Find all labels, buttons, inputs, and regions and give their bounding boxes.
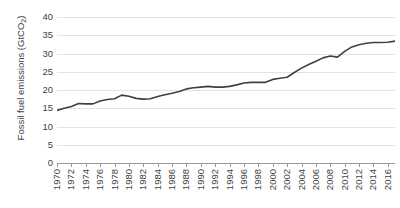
x-tick-label: 2008: [325, 169, 335, 190]
y-tick-label: 25: [27, 67, 53, 77]
x-axis-ticks: 1970197219741976197819801982198419861988…: [57, 164, 395, 208]
x-tick-mark: [373, 164, 374, 167]
x-tick-label: 2002: [282, 169, 292, 190]
x-tick-label: 1972: [66, 169, 76, 190]
x-tick-mark: [86, 164, 87, 167]
x-tick-label: 1984: [153, 169, 163, 190]
x-tick-mark: [57, 164, 58, 167]
x-tick-label: 1980: [124, 169, 134, 190]
y-axis-title: Fossil fuel emissions (GtCO2): [14, 0, 28, 158]
x-tick-mark: [258, 164, 259, 167]
x-tick-mark: [273, 164, 274, 167]
x-tick-mark: [172, 164, 173, 167]
x-tick-mark: [215, 164, 216, 167]
y-axis-title-subscript: 2: [20, 19, 27, 23]
y-tick-label: 20: [27, 85, 53, 95]
x-tick-label: 1994: [225, 169, 235, 190]
x-tick-label: 2010: [340, 169, 350, 190]
x-tick-mark: [287, 164, 288, 167]
x-tick-label: 2004: [297, 169, 307, 190]
x-tick-mark: [143, 164, 144, 167]
x-tick-label: 2006: [311, 169, 321, 190]
x-tick-mark: [230, 164, 231, 167]
x-tick-mark: [345, 164, 346, 167]
x-tick-label: 1990: [196, 169, 206, 190]
x-tick-label: 1974: [81, 169, 91, 190]
y-tick-label: 0: [27, 158, 53, 168]
x-tick-mark: [359, 164, 360, 167]
x-tick-label: 1988: [181, 169, 191, 190]
chart-container: Fossil fuel emissions (GtCO2) 4035302520…: [0, 0, 400, 208]
x-tick-mark: [71, 164, 72, 167]
y-tick-label: 40: [27, 12, 53, 22]
x-tick-label: 1998: [253, 169, 263, 190]
x-tick-label: 1982: [138, 169, 148, 190]
x-tick-label: 1996: [239, 169, 249, 190]
y-axis-title-text: Fossil fuel emissions (GtCO: [15, 23, 26, 141]
x-tick-label: 2016: [383, 169, 393, 190]
y-tick-label: 30: [27, 49, 53, 59]
x-tick-mark: [388, 164, 389, 167]
x-tick-mark: [244, 164, 245, 167]
x-tick-label: 1970: [52, 169, 62, 190]
x-tick-mark: [115, 164, 116, 167]
x-tick-mark: [330, 164, 331, 167]
x-tick-mark: [201, 164, 202, 167]
x-tick-label: 1976: [95, 169, 105, 190]
y-tick-label: 10: [27, 122, 53, 132]
x-tick-label: 1986: [167, 169, 177, 190]
x-tick-label: 2014: [368, 169, 378, 190]
x-tick-mark: [316, 164, 317, 167]
y-tick-label: 35: [27, 30, 53, 40]
x-tick-label: 2000: [268, 169, 278, 190]
y-tick-label: 15: [27, 103, 53, 113]
emissions-line-series: [57, 17, 395, 163]
plot-area: [57, 17, 395, 163]
x-tick-mark: [302, 164, 303, 167]
x-tick-label: 2012: [354, 169, 364, 190]
x-tick-mark: [186, 164, 187, 167]
x-tick-label: 1978: [110, 169, 120, 190]
x-tick-mark: [129, 164, 130, 167]
x-tick-mark: [100, 164, 101, 167]
y-tick-label: 5: [27, 140, 53, 150]
x-tick-mark: [158, 164, 159, 167]
x-tick-label: 1992: [210, 169, 220, 190]
